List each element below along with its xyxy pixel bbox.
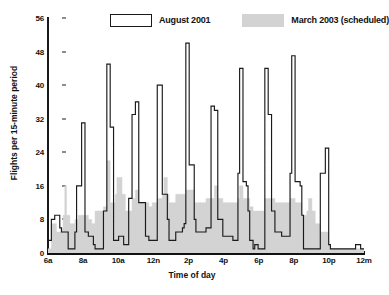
x-tick-label-2p: 2p [184,256,193,265]
plot-svg [48,18,364,253]
y-tick-label-32: 32 [20,114,44,123]
x-tick-label-8a: 8a [79,256,88,265]
y-axis-title: Flights per 15-minute period [9,43,19,203]
x-tick-label-6p: 6p [254,256,263,265]
x-tick-label-12n: 12n [147,256,160,265]
y-tick-label-24: 24 [20,148,44,157]
y-tick-label-48: 48 [20,47,44,56]
y-axis-ticks: 08162432404856 [18,18,44,253]
x-tick-label-4p: 4p [219,256,228,265]
y-tick-label-40: 40 [20,81,44,90]
x-tick-label-10p: 10p [322,256,335,265]
y-tick-label-0: 0 [20,249,44,258]
series-march-2003-area [48,161,364,253]
x-tick-label-10a: 10a [112,256,125,265]
x-tick-label-8p: 8p [289,256,298,265]
y-tick-label-8: 8 [20,215,44,224]
x-axis-ticks: 6a8a10a12n2p4p6p8p10p12m [48,256,364,270]
x-tick-label-12m: 12m [356,256,371,265]
x-axis-title: Time of day [0,270,384,280]
y-tick-label-16: 16 [20,181,44,190]
y-tick-label-56: 56 [20,14,44,23]
x-tick-label-6a: 6a [44,256,53,265]
plot-area [48,18,364,253]
